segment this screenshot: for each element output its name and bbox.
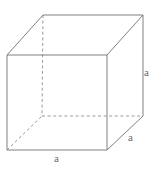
- hidden-edge-connector-bottom-left: [7, 116, 42, 150]
- hidden-edge-back-left: [42, 15, 43, 116]
- hidden-edges-group: [7, 15, 143, 150]
- edge-connector-bottom-right: [107, 116, 143, 150]
- dimension-label-height: a: [144, 67, 149, 78]
- dimension-label-depth: a: [128, 132, 133, 143]
- edge-connector-top-left: [7, 15, 43, 55]
- cube-drawing: [0, 0, 157, 173]
- edge-connector-top-right: [107, 15, 143, 55]
- dimension-label-width: a: [54, 153, 59, 164]
- cube-figure: a a a: [0, 0, 157, 173]
